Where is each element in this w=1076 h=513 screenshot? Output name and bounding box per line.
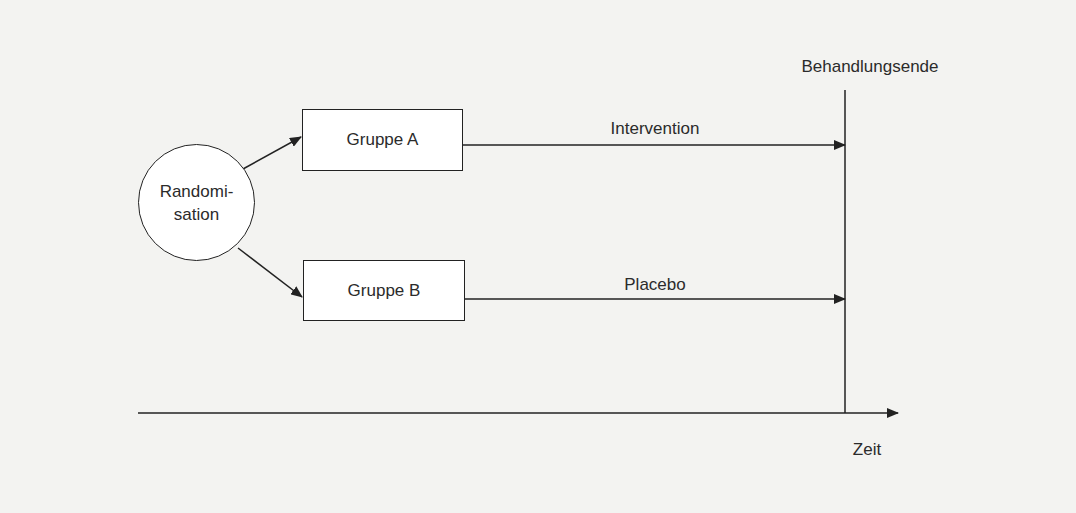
diagram-canvas: Randomi- sation Gruppe A Gruppe B Interv… <box>0 0 1076 513</box>
placebo-label: Placebo <box>624 275 685 295</box>
group-b-label: Gruppe B <box>348 281 421 301</box>
randomisation-label-line2: sation <box>174 203 219 226</box>
randomisation-node: Randomi- sation <box>138 144 255 261</box>
end-of-treatment-label: Behandlungsende <box>801 57 938 77</box>
randomisation-label-line1: Randomi- <box>160 180 234 203</box>
group-a-label: Gruppe A <box>347 130 419 150</box>
arrow-to-group-b <box>238 248 302 297</box>
intervention-label: Intervention <box>611 119 700 139</box>
group-b-box: Gruppe B <box>303 260 465 321</box>
time-axis-label: Zeit <box>853 440 881 460</box>
group-a-box: Gruppe A <box>302 109 463 171</box>
arrow-to-group-a <box>243 137 301 169</box>
